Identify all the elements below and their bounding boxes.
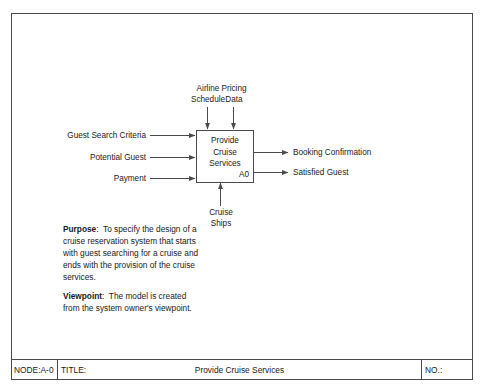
purpose-separator: : <box>96 224 98 234</box>
purpose-line-5: services. <box>63 271 263 283</box>
activity-box-number: A0 <box>196 170 249 179</box>
activity-title-line-2: Cruise <box>196 147 254 159</box>
title-cell: TITLE: Provide Cruise Services <box>58 360 422 380</box>
input-label-potential-guest: Potential Guest <box>34 153 146 164</box>
purpose-note: Purpose: To specify the design of a crui… <box>63 223 263 283</box>
viewpoint-line-1: The model is created <box>109 291 186 301</box>
control-label-pricing-data: Pricing Data <box>208 84 260 105</box>
purpose-line-1: To specify the design of a <box>103 224 197 234</box>
viewpoint-heading: Viewpoint <box>63 291 102 301</box>
node-label: NODE: <box>14 365 41 375</box>
activity-title-line-3: Services <box>196 158 254 170</box>
control-label-pricing-data-line-2: Data <box>208 95 260 106</box>
viewpoint-separator: : <box>102 291 104 301</box>
mechanism-label-cruise-ships-line-1: Cruise <box>194 208 248 219</box>
input-label-guest-search-criteria: Guest Search Criteria <box>34 131 146 142</box>
idef0-diagram-canvas <box>0 0 485 389</box>
number-cell: NO.: <box>422 360 473 380</box>
purpose-line-2: cruise reservation system that starts <box>63 235 263 247</box>
purpose-first-line: Purpose: To specify the design of a <box>63 223 263 235</box>
node-cell: NODE:A-0 <box>11 360 58 380</box>
activity-box-title: Provide Cruise Services <box>196 135 254 170</box>
viewpoint-note: Viewpoint: The model is created from the… <box>63 290 263 314</box>
purpose-line-3: with guest searching for a cruise and <box>63 247 263 259</box>
viewpoint-first-line: Viewpoint: The model is created <box>63 290 263 302</box>
control-label-pricing-data-line-1: Pricing <box>208 84 260 95</box>
output-label-satisfied-guest: Satisfied Guest <box>293 168 349 179</box>
viewpoint-line-2: from the system owner's viewpoint. <box>63 302 263 314</box>
purpose-line-4: ends with the provision of the cruise <box>63 259 263 271</box>
diagram-title-bar: NODE:A-0 TITLE: Provide Cruise Services … <box>11 359 473 380</box>
input-label-payment: Payment <box>34 174 146 185</box>
title-value: Provide Cruise Services <box>58 365 421 375</box>
activity-title-line-1: Provide <box>196 135 254 147</box>
number-label: NO.: <box>425 365 442 375</box>
node-value: A-0 <box>41 365 54 375</box>
purpose-heading: Purpose <box>63 224 96 234</box>
output-label-booking-confirmation: Booking Confirmation <box>293 148 371 159</box>
